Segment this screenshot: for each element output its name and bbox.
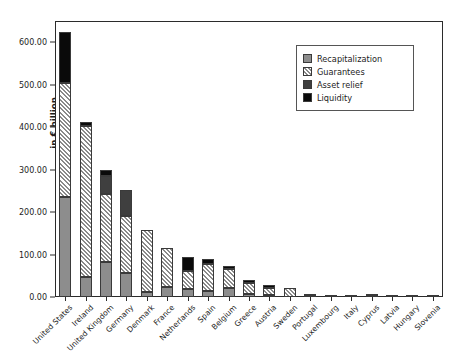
bar-segment-guarantees bbox=[202, 264, 214, 291]
swatch-guarantees-icon bbox=[303, 67, 312, 76]
x-axis-tick-mark bbox=[310, 297, 311, 301]
bar-austria[interactable] bbox=[263, 21, 275, 297]
x-axis-tick-label: Cyprus bbox=[356, 303, 381, 328]
bar-segment-liquidity bbox=[223, 266, 235, 269]
bar-segment-liquidity bbox=[243, 280, 255, 283]
bar-segment-guarantees bbox=[263, 288, 275, 296]
x-axis-tick-mark bbox=[167, 297, 168, 301]
y-axis-tick-mark bbox=[50, 169, 55, 170]
swatch-liquidity-icon bbox=[303, 93, 312, 102]
bar-segment-guarantees bbox=[80, 126, 92, 277]
x-axis-tick-mark bbox=[412, 297, 413, 301]
x-axis-tick-mark bbox=[249, 297, 250, 301]
bar-segment-guarantees bbox=[284, 288, 296, 297]
bar-segment-recapitalization bbox=[182, 289, 194, 297]
x-axis-tick-mark bbox=[433, 297, 434, 301]
bar-segment-asset-relief bbox=[100, 176, 112, 194]
legend-item-label: Liquidity bbox=[317, 93, 352, 103]
y-axis-tick-mark bbox=[50, 42, 55, 43]
legend-item[interactable]: Recapitalization bbox=[303, 52, 406, 65]
bar-segment-liquidity bbox=[202, 259, 214, 265]
x-axis-tick-mark bbox=[65, 297, 66, 301]
bar-segment-liquidity bbox=[182, 257, 194, 271]
x-axis-tick-mark bbox=[208, 297, 209, 301]
y-axis-tick-label: 500.00 bbox=[19, 80, 47, 89]
bar-segment-guarantees bbox=[243, 283, 255, 294]
y-axis-tick-label: 600.00 bbox=[19, 38, 47, 47]
bar-segment-recapitalization bbox=[100, 262, 112, 297]
y-axis-tick-label: 200.00 bbox=[19, 208, 47, 217]
swatch-recapitalization-icon bbox=[303, 54, 312, 63]
bar-united-states[interactable] bbox=[59, 21, 71, 297]
bar-segment-guarantees bbox=[182, 271, 194, 289]
bar-segment-asset-relief bbox=[120, 190, 132, 216]
bar-spain[interactable] bbox=[202, 21, 214, 297]
legend-item-label: Recapitalization bbox=[317, 54, 382, 64]
chart-legend: RecapitalizationGuaranteesAsset reliefLi… bbox=[296, 45, 414, 111]
y-axis-tick-mark bbox=[50, 127, 55, 128]
x-axis-tick-mark bbox=[106, 297, 107, 301]
x-axis-tick-mark bbox=[392, 297, 393, 301]
y-axis-tick-label: 300.00 bbox=[19, 165, 47, 174]
x-axis-tick-mark bbox=[147, 297, 148, 301]
bar-sweden[interactable] bbox=[284, 21, 296, 297]
bar-segment-recapitalization bbox=[120, 273, 132, 297]
bar-segment-liquidity bbox=[80, 122, 92, 126]
bar-segment-liquidity bbox=[263, 285, 275, 288]
x-axis-tick-mark bbox=[331, 297, 332, 301]
y-axis-tick-label: 100.00 bbox=[19, 250, 47, 259]
x-axis-tick-mark bbox=[290, 297, 291, 301]
bar-segment-guarantees bbox=[161, 248, 173, 287]
bar-segment-recapitalization bbox=[80, 277, 92, 297]
bar-segment-guarantees bbox=[59, 83, 71, 198]
bar-slovenia[interactable] bbox=[427, 21, 439, 297]
x-axis-tick-mark bbox=[126, 297, 127, 301]
legend-item[interactable]: Asset relief bbox=[303, 78, 406, 91]
legend-item[interactable]: Guarantees bbox=[303, 65, 406, 78]
x-axis-tick-mark bbox=[351, 297, 352, 301]
legend-item-label: Guarantees bbox=[317, 67, 365, 77]
y-axis-tick-mark bbox=[50, 84, 55, 85]
bar-united-kingdom[interactable] bbox=[100, 21, 112, 297]
legend-item-label: Asset relief bbox=[317, 80, 363, 90]
chart-page: 0.00100.00200.00300.00400.00500.00600.00… bbox=[0, 0, 461, 361]
bar-segment-recapitalization bbox=[59, 197, 71, 297]
bar-segment-guarantees bbox=[141, 230, 153, 292]
bar-germany[interactable] bbox=[120, 21, 132, 297]
bar-segment-guarantees bbox=[223, 269, 235, 289]
bar-segment-guarantees bbox=[100, 194, 112, 262]
bar-greece[interactable] bbox=[243, 21, 255, 297]
y-axis-tick-mark bbox=[50, 297, 55, 298]
bar-ireland[interactable] bbox=[80, 21, 92, 297]
y-axis-tick-mark bbox=[50, 254, 55, 255]
bar-segment-guarantees bbox=[304, 294, 316, 296]
bar-segment-liquidity bbox=[59, 32, 71, 83]
x-axis-tick-mark bbox=[188, 297, 189, 301]
bar-segment-guarantees bbox=[366, 294, 378, 296]
bar-france[interactable] bbox=[161, 21, 173, 297]
x-axis-tick-mark bbox=[229, 297, 230, 301]
legend-item[interactable]: Liquidity bbox=[303, 91, 406, 104]
bar-belgium[interactable] bbox=[223, 21, 235, 297]
bar-segment-liquidity bbox=[100, 170, 112, 176]
y-axis-tick-label: 0.00 bbox=[29, 293, 47, 302]
x-axis-tick-mark bbox=[372, 297, 373, 301]
bar-netherlands[interactable] bbox=[182, 21, 194, 297]
x-axis-tick-mark bbox=[269, 297, 270, 301]
bar-segment-guarantees bbox=[120, 216, 132, 273]
bar-denmark[interactable] bbox=[141, 21, 153, 297]
y-axis-tick-container: 0.00100.00200.00300.00400.00500.00600.00 bbox=[0, 0, 55, 361]
x-axis-tick-mark bbox=[86, 297, 87, 301]
bar-segment-recapitalization bbox=[223, 288, 235, 297]
y-axis-tick-mark bbox=[50, 212, 55, 213]
swatch-asset-relief-icon bbox=[303, 80, 312, 89]
bar-segment-recapitalization bbox=[161, 287, 173, 297]
y-axis-tick-label: 400.00 bbox=[19, 123, 47, 132]
